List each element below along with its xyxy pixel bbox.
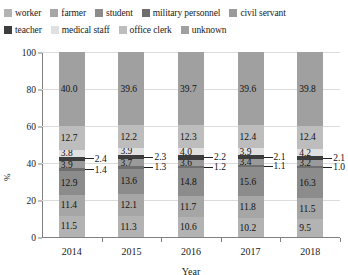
bar-segment-unknown[interactable]: 39.8 [297,52,323,126]
segment-value-label: 12.1 [120,200,137,210]
bar-segment-unknown[interactable]: 40.0 [59,52,85,126]
legend-label: student [106,8,133,18]
legend-item-farmer[interactable]: farmer [50,8,86,18]
bar-segment-worker[interactable]: 9.5 [297,219,323,237]
segment-value-label: 3.8 [61,148,73,158]
bar-segment-medical-staff[interactable]: 3.9 [238,148,264,155]
stacked-bar-2017[interactable]: 10.211.815.61.13.42.13.912.439.6 [238,52,264,237]
bar-segment-unknown[interactable]: 39.6 [238,52,264,125]
bar-segment-farmer[interactable]: 11.7 [178,196,204,218]
y-axis-line [42,53,43,238]
bar-segment-worker[interactable]: 10.6 [178,217,204,237]
bar-segment-office-clerk[interactable]: 12.4 [297,126,323,149]
bar-segment-worker[interactable]: 10.2 [238,218,264,237]
bar-segment-farmer[interactable]: 11.8 [238,196,264,218]
bar-segment-office-clerk[interactable]: 12.3 [178,125,204,148]
bar-segment-unknown[interactable]: 39.6 [118,52,144,125]
bar-segment-civil-servant[interactable]: 3.7 [118,159,144,166]
segment-value-label: 3.9 [240,147,252,157]
bar-segment-office-clerk[interactable]: 12.7 [59,126,85,149]
legend-swatch-icon [95,9,103,17]
y-tick-label: 60 [27,122,43,132]
legend-item-military-personnel[interactable]: military personnel [142,8,221,18]
callout-leader-line [204,167,213,168]
legend-item-unknown[interactable]: unknown [181,25,227,35]
legend-item-office-clerk[interactable]: office clerk [119,25,172,35]
bar-segment-civil-servant[interactable]: 3.2 [297,160,323,166]
stacked-bar-2016[interactable]: 10.611.714.81.23.62.24.012.339.7 [178,52,204,237]
x-tick-label: 2016 [181,246,201,257]
bar-segment-unknown[interactable]: 39.7 [178,52,204,125]
callout-leader-line [85,158,94,159]
bar-segment-student[interactable]: 13.6 [118,169,144,194]
segment-value-label: 11.4 [61,200,77,210]
segment-value-label: 12.7 [61,133,78,143]
bar-segment-medical-staff[interactable]: 4.0 [178,148,204,155]
y-tick-label: 20 [27,196,43,206]
segment-value-label: 14.8 [180,177,197,187]
x-tick-label: 2017 [241,246,261,257]
legend-swatch-icon [51,26,59,34]
segment-value-label: 1.4 [95,165,107,175]
segment-value-label: 40.0 [61,84,78,94]
legend-item-worker[interactable]: worker [4,8,41,18]
bar-segment-civil-servant[interactable]: 3.6 [178,160,204,167]
legend-swatch-icon [229,9,237,17]
x-axis-title: Year [42,266,340,275]
segment-value-label: 1.0 [333,162,345,172]
bar-segment-office-clerk[interactable]: 12.4 [238,125,264,148]
stacked-bar-2015[interactable]: 11.312.113.61.33.72.33.912.239.6 [118,52,144,237]
segment-callout: 2.1 [264,152,286,162]
legend-item-teacher[interactable]: teacher [4,25,42,35]
callout-leader-line [144,167,153,168]
bar-segment-worker[interactable]: 11.3 [118,216,144,237]
segment-callout: 2.3 [144,152,166,162]
segment-value-label: 1.1 [274,161,286,171]
y-tick-label: 40 [27,159,43,169]
bar-segment-farmer[interactable]: 11.5 [297,198,323,219]
bar-segment-civil-servant[interactable]: 3.9 [59,161,85,168]
bar-segment-student[interactable]: 16.3 [297,168,323,198]
y-axis-title: % [2,174,12,182]
x-axis-line [42,237,340,238]
x-tick-mark [161,238,162,242]
segment-value-label: 2.3 [154,152,166,162]
legend-swatch-icon [50,9,58,17]
y-tick-label: 0 [31,233,42,243]
legend-label: teacher [15,25,42,35]
stacked-bar-2018[interactable]: 9.511.516.31.03.22.14.212.439.8 [297,52,323,237]
legend-item-student[interactable]: student [95,8,133,18]
legend-row-2: teachermedical staffoffice clerkunknown [4,21,344,38]
callout-leader-line [85,169,94,170]
segment-value-label: 10.6 [180,222,197,232]
bar-segment-civil-servant[interactable]: 3.4 [238,159,264,165]
callout-leader-line [323,167,332,168]
legend-item-medical-staff[interactable]: medical staff [51,25,110,35]
bar-segment-medical-staff[interactable]: 4.2 [297,149,323,157]
legend-swatch-icon [4,9,12,17]
legend-label: worker [15,8,41,18]
x-tick-mark [340,238,341,242]
stacked-bar-2014[interactable]: 11.511.412.91.43.92.43.812.740.0 [59,52,85,237]
bar-segment-student[interactable]: 15.6 [238,167,264,196]
legend-item-civil-servant[interactable]: civil servant [229,8,285,18]
bar-segment-medical-staff[interactable]: 3.9 [118,148,144,155]
segment-value-label: 2.2 [214,152,226,162]
segment-value-label: 2.1 [274,152,286,162]
bar-segment-farmer[interactable]: 11.4 [59,195,85,216]
bar-segment-worker[interactable]: 11.5 [59,216,85,237]
segment-value-label: 2.4 [95,154,107,164]
bar-segment-medical-staff[interactable]: 3.8 [59,150,85,157]
segment-value-label: 9.5 [299,223,311,233]
x-tick-label: 2015 [121,246,141,257]
segment-value-label: 39.6 [120,84,137,94]
bar-segment-office-clerk[interactable]: 12.2 [118,125,144,148]
bar-segment-student[interactable]: 14.8 [178,168,204,195]
bar-segment-farmer[interactable]: 12.1 [118,194,144,216]
segment-value-label: 3.9 [61,160,73,170]
segment-value-label: 1.3 [154,162,166,172]
callout-leader-line [204,157,213,158]
callout-leader-line [264,166,273,167]
segment-value-label: 10.2 [240,223,257,233]
bar-segment-student[interactable]: 12.9 [59,171,85,195]
